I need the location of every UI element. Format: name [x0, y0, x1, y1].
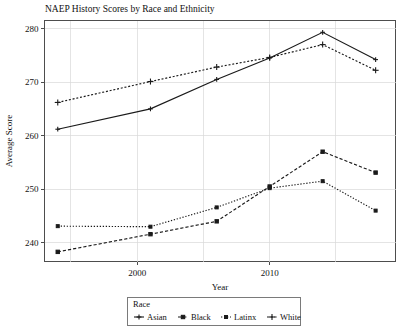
legend-marker-black [181, 315, 184, 318]
y-tick-label: 260 [25, 131, 39, 141]
legend-label-white: White [280, 312, 301, 322]
y-tick-label: 280 [25, 24, 39, 34]
data-point-black [374, 171, 377, 174]
data-point-latinx [321, 180, 324, 183]
x-tick-label: 2000 [128, 268, 147, 278]
legend-label-asian: Asian [147, 312, 168, 322]
data-point-latinx [215, 206, 218, 209]
legend-label-latinx: Latinx [234, 312, 257, 322]
y-axis-ticks: 240250260270280 [25, 24, 45, 248]
chart-title: NAEP History Scores by Race and Ethnicit… [45, 4, 215, 14]
legend-marker-latinx [225, 316, 228, 319]
chart-legend: Race AsianBlackLatinxWhite [128, 298, 301, 326]
data-point-latinx [149, 225, 152, 228]
x-axis-ticks: 20002010 [128, 262, 279, 278]
data-point-latinx [268, 187, 271, 190]
y-axis-title: Average Score [4, 115, 14, 168]
naep-history-scores-chart: NAEP History Scores by Race and Ethnicit… [0, 0, 403, 333]
data-point-latinx [374, 209, 377, 212]
data-point-black [149, 232, 152, 235]
legend-title: Race [133, 299, 150, 309]
data-point-latinx [56, 225, 59, 228]
legend-label-black: Black [191, 312, 212, 322]
plot-panel [45, 21, 396, 262]
y-tick-label: 270 [25, 77, 39, 87]
x-tick-label: 2010 [261, 268, 280, 278]
y-tick-label: 250 [25, 184, 39, 194]
data-point-black [321, 150, 324, 153]
chart-canvas: NAEP History Scores by Race and Ethnicit… [0, 0, 403, 333]
y-tick-label: 240 [25, 238, 39, 248]
data-point-black [56, 250, 59, 253]
x-axis-title: Year [212, 282, 229, 292]
data-point-black [215, 220, 218, 223]
